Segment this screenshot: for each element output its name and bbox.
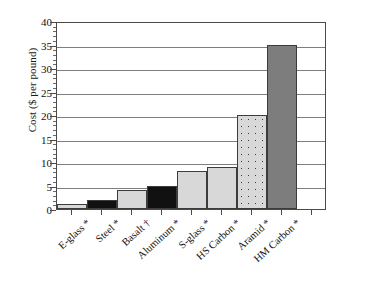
x-axis-tick-mark xyxy=(131,210,132,215)
bar xyxy=(147,186,176,210)
y-axis-tick-label: 35 xyxy=(12,41,52,51)
bar xyxy=(177,171,206,209)
x-axis-tick-mark xyxy=(71,210,72,215)
plot-area xyxy=(56,22,326,210)
bar xyxy=(237,115,266,209)
y-axis-tick-label: 40 xyxy=(12,17,52,27)
x-axis-tick-mark xyxy=(221,210,222,215)
bar xyxy=(117,190,146,209)
y-axis-tick-label: 30 xyxy=(12,64,52,74)
bar xyxy=(267,45,296,210)
x-axis-tick-mark xyxy=(311,210,312,215)
bar xyxy=(57,204,86,209)
x-axis-tick-mark xyxy=(191,210,192,215)
x-axis-tick-mark xyxy=(251,210,252,215)
x-axis-tick-mark xyxy=(161,210,162,215)
y-axis-tick-label: 15 xyxy=(12,135,52,145)
y-axis-tick-mark xyxy=(50,210,56,211)
y-axis-tick-label: 10 xyxy=(12,158,52,168)
y-axis-tick-label: 0 xyxy=(12,205,52,215)
x-axis-tick-mark xyxy=(101,210,102,215)
y-axis-tick-label: 5 xyxy=(12,182,52,192)
x-axis-tick-mark xyxy=(281,210,282,215)
bar xyxy=(87,200,116,209)
y-axis-tick-label: 25 xyxy=(12,88,52,98)
bar xyxy=(207,167,236,209)
bar-chart-figure: Cost ($ per pound) 0510152025303540 E-gl… xyxy=(0,0,366,289)
y-axis-tick-label: 20 xyxy=(12,111,52,121)
